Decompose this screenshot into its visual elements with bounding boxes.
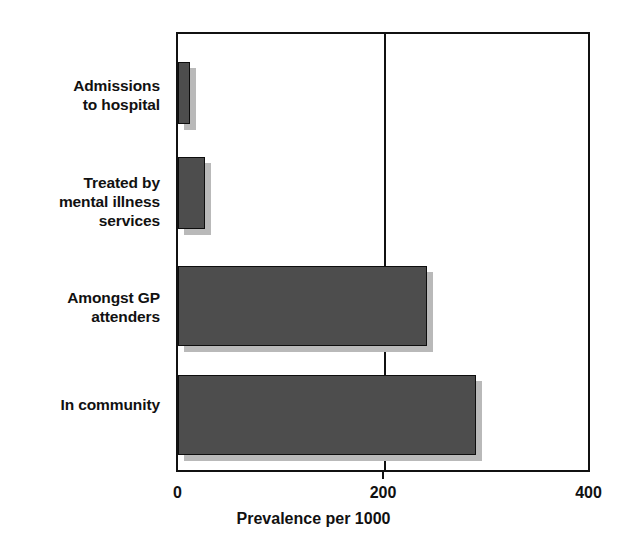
category-label-line: to hospital bbox=[2, 95, 160, 114]
bar[interactable] bbox=[178, 157, 205, 229]
category-label-line: Treated by bbox=[2, 173, 160, 192]
bar-chart: Admissions to hospital Treated by mental… bbox=[0, 0, 627, 556]
x-tick-label: 0 bbox=[173, 484, 182, 502]
category-label-admissions-to-hospital: Admissions to hospital bbox=[2, 76, 160, 114]
category-label-line: services bbox=[2, 211, 160, 230]
bar[interactable] bbox=[178, 266, 427, 346]
category-label-line: In community bbox=[2, 395, 160, 414]
x-tick-label: 400 bbox=[575, 484, 602, 502]
category-axis-labels: Admissions to hospital Treated by mental… bbox=[0, 32, 168, 472]
category-label-line: attenders bbox=[2, 307, 160, 326]
x-tick-mark bbox=[382, 470, 384, 479]
x-axis-title: Prevalence per 1000 bbox=[0, 510, 627, 528]
category-label-line: Amongst GP bbox=[2, 288, 160, 307]
category-label-in-community: In community bbox=[2, 395, 160, 414]
category-label-line: mental illness bbox=[2, 192, 160, 211]
category-label-line: Admissions bbox=[2, 76, 160, 95]
x-tick-label: 200 bbox=[370, 484, 397, 502]
plot-area bbox=[176, 32, 590, 472]
bar[interactable] bbox=[178, 62, 190, 124]
bar[interactable] bbox=[178, 375, 476, 455]
category-label-treated-by-mental-illness-services: Treated by mental illness services bbox=[2, 173, 160, 230]
category-label-amongst-gp-attenders: Amongst GP attenders bbox=[2, 288, 160, 326]
